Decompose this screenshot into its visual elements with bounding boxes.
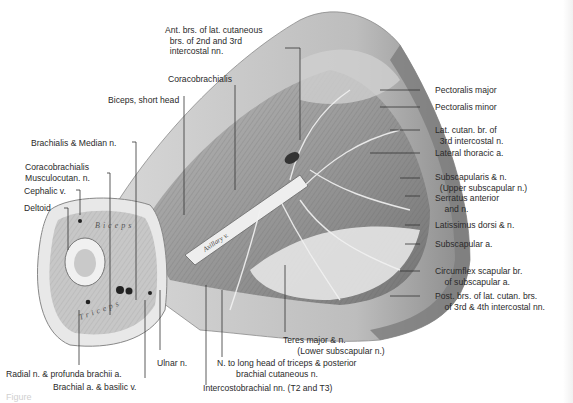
label-serratus-anterior: Serratus anterior and n. [435,193,499,214]
label-teres-major: Teres major & n. (Lower subscapular n.) [283,335,385,356]
label-post-brs: Post. brs. of lat. cutan. brs. of 3rd & … [435,291,545,312]
label-cephalic-v: Cephalic v. [24,186,66,197]
label-coracobrachialis: Coracobrachialis [168,74,232,85]
label-pectoralis-major: Pectoralis major [435,85,497,96]
label-pectoralis-minor: Pectoralis minor [435,102,497,113]
figure-caption-fragment: Figure [6,392,32,402]
label-lat-cutan-br: Lat. cutan. br. of 3rd intercostal n. [435,125,503,146]
label-circumflex-scapular: Circumflex scapular br. of subscapular a… [435,266,522,287]
label-biceps-short-head: Biceps, short head [108,95,179,106]
label-ulnar-n: Ulnar n. [157,358,187,369]
label-n-long-head-triceps: N. to long head of triceps & posterior b… [217,358,357,379]
anatomy-figure: Axillary v. Biceps Triceps [0,0,573,403]
label-coracobrachialis-musculocutan: Coracobrachialis Musculocutan. n. [25,162,90,183]
label-ant-brs: Ant. brs. of lat. cutaneous brs. of 2nd … [165,25,262,57]
label-latissimus-dorsi: Latissimus dorsi & n. [435,220,514,231]
label-brachialis-median: Brachialis & Median n. [31,138,117,149]
label-lateral-thoracic-a: Lateral thoracic a. [435,148,503,159]
label-subscapularis: Subscapularis & n. (Upper subscapular n.… [435,172,527,193]
label-radial-n: Radial n. & profunda brachii a. [6,369,122,380]
svg-text:Biceps: Biceps [95,221,134,230]
label-intercostobrachial: Intercostobrachial nn. (T2 and T3) [203,383,332,394]
label-subscapular-a: Subscapular a. [435,239,492,250]
label-brachial-a: Brachial a. & basilic v. [53,382,136,393]
label-deltoid: Deltoid [24,203,51,214]
page-edge-shadow [563,0,573,403]
